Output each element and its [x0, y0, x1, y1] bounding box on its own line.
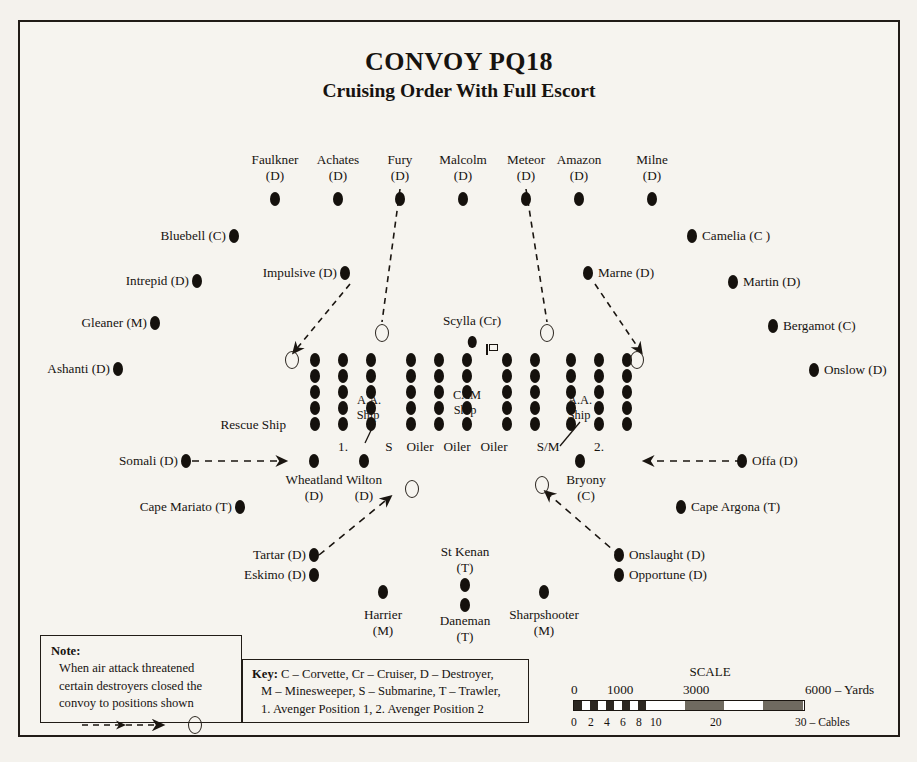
note-box: Note: When air attack threatened certain…	[40, 635, 242, 723]
inner-label: Ship	[568, 409, 591, 423]
column-label: Oiler	[406, 440, 433, 455]
convoy-ship	[338, 369, 348, 383]
ship-type: (D)	[643, 169, 661, 184]
convoy-ship	[622, 417, 632, 431]
key-line: C – Corvette, Cr – Cruiser, D – Destroye…	[281, 667, 494, 681]
convoy-ship	[502, 401, 512, 415]
ship-marker	[809, 363, 819, 377]
convoy-ship	[594, 385, 604, 399]
convoy-ship	[366, 353, 376, 367]
ship-type: (M)	[373, 624, 394, 639]
convoy-ship	[434, 417, 444, 431]
ship-label: Wheatland	[285, 473, 342, 488]
ship-marker	[575, 454, 585, 468]
flagship-label: Scylla (Cr)	[443, 314, 501, 329]
ship-label: Cape Mariato (T)	[140, 500, 232, 515]
ship-label: Impulsive (D)	[263, 266, 337, 281]
avenger-position-marker	[540, 324, 554, 342]
ship-marker	[150, 316, 160, 330]
rescue-ship-label: Rescue Ship	[220, 418, 286, 433]
scale-cables-tick: 6	[620, 716, 626, 729]
ship-label: Milne	[636, 153, 668, 168]
convoy-ship	[502, 417, 512, 431]
ship-marker	[460, 578, 470, 592]
column-label: 1.	[338, 440, 348, 455]
ship-label: St Kenan	[441, 545, 490, 560]
ship-type: (D)	[570, 169, 588, 184]
ship-type: (D)	[391, 169, 409, 184]
ship-marker	[737, 454, 747, 468]
ship-label: Bergamot (C)	[783, 319, 856, 334]
convoy-ship	[502, 369, 512, 383]
ship-type: (M)	[534, 624, 555, 639]
convoy-ship	[530, 417, 540, 431]
convoy-ship	[434, 369, 444, 383]
ship-marker	[333, 192, 343, 206]
ship-label: Achates	[317, 153, 359, 168]
ship-label: Eskimo (D)	[244, 568, 306, 583]
ship-marker	[583, 266, 593, 280]
ship-label: Onslow (D)	[824, 363, 887, 378]
convoy-ship	[594, 369, 604, 383]
ship-marker	[539, 585, 549, 599]
convoy-ship	[594, 417, 604, 431]
column-label: S/M	[537, 440, 560, 455]
convoy-ship	[338, 417, 348, 431]
ship-label: Bluebell (C)	[160, 229, 226, 244]
key-box: Key: C – Corvette, Cr – Cruiser, D – Des…	[242, 659, 529, 723]
ship-marker	[192, 274, 202, 288]
ship-marker	[676, 500, 686, 514]
key-line: M – Minesweeper, S – Submarine, T – Traw…	[252, 683, 519, 700]
convoy-ship	[462, 417, 472, 431]
convoy-ship	[434, 401, 444, 415]
ship-label: Somali (D)	[119, 454, 178, 469]
ship-marker	[614, 548, 624, 562]
convoy-ship	[406, 369, 416, 383]
convoy-ship	[406, 417, 416, 431]
ship-label: Cape Argona (T)	[691, 500, 780, 515]
note-line: convoy to positions shown	[59, 695, 231, 712]
ship-marker	[614, 568, 624, 582]
avenger-position-marker	[535, 476, 549, 494]
ship-label: Marne (D)	[598, 266, 654, 281]
convoy-ship	[338, 385, 348, 399]
inner-label: A.A.	[357, 394, 381, 408]
convoy-ship	[530, 401, 540, 415]
convoy-ship	[530, 369, 540, 383]
ship-label: Offa (D)	[752, 454, 798, 469]
convoy-ship	[406, 353, 416, 367]
ship-label: Camelia (C )	[702, 229, 770, 244]
ship-type: (C)	[577, 489, 595, 504]
ship-type: (D)	[355, 489, 373, 504]
ship-marker	[378, 585, 388, 599]
dashed-arrow-legend-icon	[80, 719, 166, 731]
convoy-ship	[566, 353, 576, 367]
convoy-ship	[462, 369, 472, 383]
note-line: certain destroyers closed the	[59, 678, 231, 695]
ship-marker	[728, 275, 738, 289]
scale-cables-tick: 10	[650, 716, 662, 729]
ship-type: (T)	[457, 630, 474, 645]
convoy-ship	[406, 401, 416, 415]
scale-cables-tick: 2	[588, 716, 594, 729]
diagram-frame: CONVOY PQ18 Cruising Order With Full Esc…	[18, 20, 900, 737]
inner-label: CAM	[453, 389, 481, 403]
ship-label: Amazon	[557, 153, 602, 168]
column-label: S	[385, 440, 392, 455]
ship-label: Opportune (D)	[629, 568, 707, 583]
scale-yards-tick: 3000	[683, 683, 709, 698]
pennant-icon	[486, 344, 497, 355]
avenger-position-marker	[285, 351, 299, 369]
convoy-ship	[406, 385, 416, 399]
ship-label: Bryony	[566, 473, 606, 488]
inner-label: Ship	[357, 409, 380, 423]
convoy-ship	[338, 353, 348, 367]
convoy-ship	[310, 353, 320, 367]
convoy-ship	[434, 353, 444, 367]
scale-yards-tick: 0	[571, 683, 578, 698]
ship-marker	[181, 454, 191, 468]
inner-label: A.A.	[568, 394, 592, 408]
column-label: Oiler	[443, 440, 470, 455]
scale-cables-tick: 30 – Cables	[795, 716, 850, 729]
key-heading: Key:	[252, 667, 278, 681]
